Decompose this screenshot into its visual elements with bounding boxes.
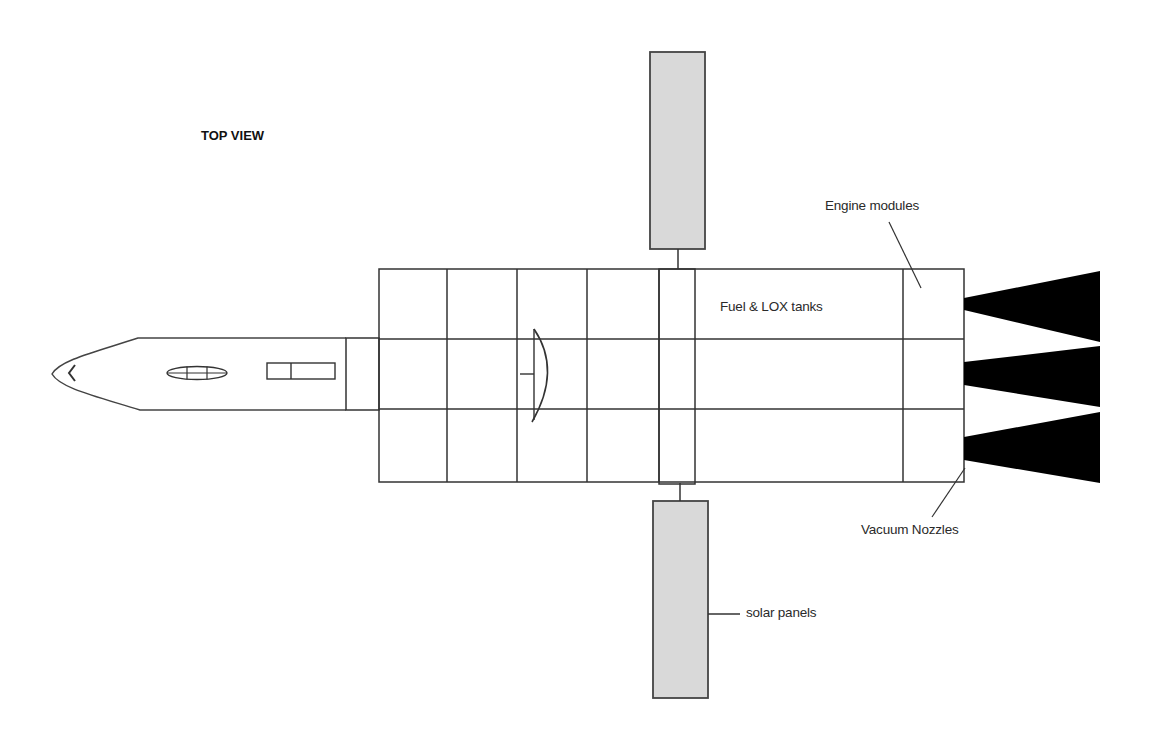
vacuum-nozzle-3 (964, 412, 1100, 483)
adapter-section (346, 338, 379, 410)
solar-panel-top (650, 52, 705, 249)
engine-modules-leader (889, 222, 921, 288)
nose-window-icon (69, 365, 75, 381)
vacuum-nozzle-2 (964, 346, 1100, 407)
vacuum-nozzles-label: Vacuum Nozzles (861, 522, 959, 537)
vacuum-nozzles-leader (932, 468, 965, 517)
solar-panel-bottom (653, 501, 708, 698)
view-title: TOP VIEW (201, 128, 264, 143)
spacecraft-top-view-diagram (0, 0, 1149, 752)
solar-panels-label: solar panels (746, 605, 816, 620)
nose-section (52, 338, 346, 410)
fuel-lox-tanks-label: Fuel & LOX tanks (720, 299, 823, 314)
truss-segment (659, 269, 695, 484)
engine-modules-label: Engine modules (825, 198, 919, 213)
cargo-hatch (267, 363, 335, 379)
tank-grid (379, 269, 964, 482)
vacuum-nozzle-1 (964, 271, 1100, 342)
